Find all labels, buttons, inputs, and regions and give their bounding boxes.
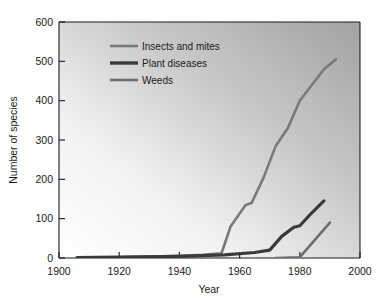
legend-label-2: Plant diseases xyxy=(142,58,207,69)
y-axis-tick-labels: 0100200300400500600 xyxy=(35,16,53,264)
plot-background xyxy=(59,22,360,258)
y-tick-label: 600 xyxy=(35,16,53,28)
x-axis-tick-labels: 190019201940196019802000 xyxy=(47,265,372,277)
y-tick-label: 400 xyxy=(35,94,53,106)
x-tick-label: 1900 xyxy=(47,265,71,277)
y-axis-title: Number of species xyxy=(7,96,19,184)
x-tick-label: 1920 xyxy=(108,265,132,277)
x-tick-label: 1960 xyxy=(228,265,252,277)
line-chart: 0100200300400500600 19001920194019601980… xyxy=(0,0,382,303)
y-tick-label: 100 xyxy=(35,212,53,224)
chart-figure: 0100200300400500600 19001920194019601980… xyxy=(0,0,382,303)
x-tick-label: 1980 xyxy=(288,265,312,277)
legend-label-1: Insects and mites xyxy=(142,41,220,52)
x-tick-label: 1940 xyxy=(168,265,192,277)
y-tick-label: 500 xyxy=(35,55,53,67)
y-tick-label: 0 xyxy=(47,252,53,264)
x-tick-label: 2000 xyxy=(348,265,372,277)
x-axis-title: Year xyxy=(198,283,220,295)
y-tick-label: 200 xyxy=(35,173,53,185)
y-tick-label: 300 xyxy=(35,134,53,146)
legend-label-3: Weeds xyxy=(142,75,173,86)
